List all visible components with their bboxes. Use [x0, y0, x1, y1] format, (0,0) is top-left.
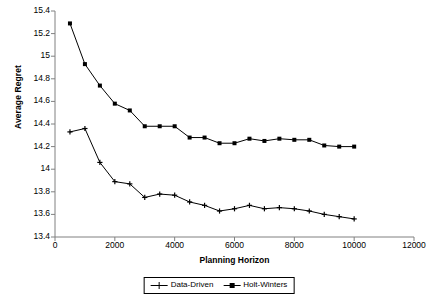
- chart-container: Average Regret 13.413.613.81414.214.414.…: [0, 0, 438, 303]
- chart-legend: Data-Driven Holt-Winters: [144, 277, 295, 294]
- x-tick-label: 8000: [264, 240, 324, 250]
- legend-item-holt-winters: Holt-Winters: [223, 280, 287, 290]
- legend-item-data-driven: Data-Driven: [151, 280, 214, 290]
- x-tick-label: 6000: [205, 240, 265, 250]
- x-tick-label: 10000: [324, 240, 384, 250]
- x-tick-label: 2000: [85, 240, 145, 250]
- x-axis-title: Planning Horizon: [55, 255, 414, 265]
- x-tick-label: 0: [25, 240, 85, 250]
- x-tick-label: 4000: [145, 240, 205, 250]
- legend-label: Data-Driven: [171, 280, 214, 290]
- x-tick-label: 12000: [384, 240, 438, 250]
- legend-marker-square-icon: [223, 281, 240, 290]
- legend-label: Holt-Winters: [243, 280, 287, 290]
- legend-marker-cross-icon: [151, 281, 168, 290]
